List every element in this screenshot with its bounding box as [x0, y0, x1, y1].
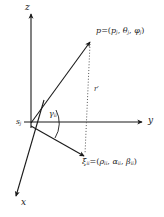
axis-label-y: y — [148, 116, 153, 125]
xi-close-paren: ) — [134, 157, 137, 166]
projection-line-r-prime — [85, 44, 90, 154]
vector-to-xi — [31, 126, 84, 156]
distance-label-r-prime: r′ — [94, 86, 99, 93]
xi-sep1: , — [107, 157, 110, 166]
p-close-paren: ) — [141, 26, 144, 35]
xi-sep2: , — [121, 157, 124, 166]
origin-subscript: j — [20, 121, 21, 126]
p-sep1: , — [118, 26, 121, 35]
point-label-xi: ξii=(ρii, αii, βii) — [82, 158, 137, 166]
r-prime-mark: ′ — [97, 85, 99, 93]
p-sep2: , — [129, 26, 132, 35]
p-equals: = — [101, 26, 108, 35]
point-label-p: p=(pj, θj, φj) — [96, 27, 144, 35]
angle-label-gamma: γii — [49, 110, 57, 118]
spherical-coordinate-diagram: z y x sj p=(pj, θj, φj) ξii=(ρii, αii, β… — [0, 0, 164, 217]
vector-to-p — [31, 42, 90, 123]
axis-label-x: x — [21, 198, 26, 207]
origin-label: sj — [16, 118, 21, 127]
gamma-subscript: ii — [54, 112, 57, 118]
axis-x — [16, 100, 44, 196]
axis-label-z: z — [25, 3, 30, 12]
